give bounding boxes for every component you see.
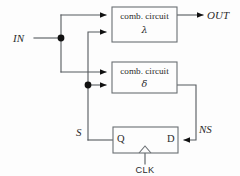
diagram-canvas: comb. circuit λ comb. circuit δ Q D IN O… [0, 0, 240, 176]
circuit-svg: comb. circuit λ comb. circuit δ Q D IN O… [0, 0, 240, 176]
wire-delta-to-d [177, 85, 196, 140]
signal-label-in: IN [12, 32, 25, 44]
signal-label-s: S [76, 126, 82, 138]
junction-dot-icon-state [85, 82, 92, 89]
lambda-block[interactable]: comb. circuit λ [112, 7, 177, 42]
flipflop-pin-q-label: Q [117, 133, 125, 144]
lambda-block-label-line1: comb. circuit [120, 11, 169, 21]
flipflop-block[interactable]: Q D [113, 127, 178, 153]
delta-block-label-symbol: δ [142, 78, 148, 89]
lambda-block-label-symbol: λ [140, 24, 147, 35]
delta-block[interactable]: comb. circuit δ [112, 62, 177, 93]
signal-label-ns: NS [198, 123, 212, 135]
junction-dot-icon-in [58, 35, 65, 42]
flipflop-pin-d-label: D [167, 133, 175, 144]
delta-block-label-line1: comb. circuit [120, 66, 169, 76]
signal-label-clk: CLK [136, 165, 155, 175]
signal-label-out: OUT [207, 9, 230, 21]
